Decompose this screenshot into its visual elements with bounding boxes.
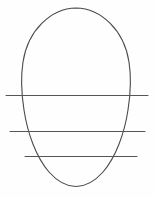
drawing-background — [0, 0, 155, 197]
figure-drawing — [0, 0, 155, 197]
figure-canvas: Oval outline crossed by three horizontal… — [0, 0, 155, 197]
